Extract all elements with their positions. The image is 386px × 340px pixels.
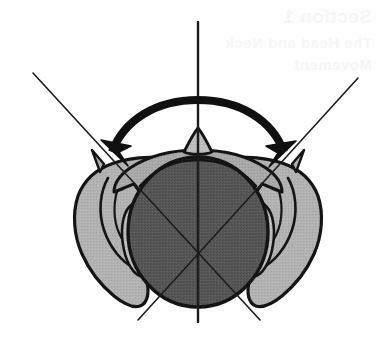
right-deltoid-tip: [292, 150, 304, 172]
anatomical-figure-head-rotation: Section 1 The Head and Neck Movement: [0, 0, 386, 340]
head-rotation-illustration: [0, 0, 386, 340]
left-deltoid-tip: [92, 150, 104, 172]
